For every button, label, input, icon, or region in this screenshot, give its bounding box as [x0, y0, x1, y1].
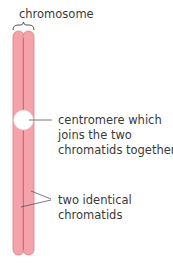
centromere-label-line1: centromere which	[58, 113, 162, 128]
chromosome-brace	[13, 22, 34, 30]
chromatids-label-line1: two identical	[58, 193, 132, 208]
left-chromatid	[13, 31, 24, 255]
chromatids-label-line2: chromatids	[58, 208, 122, 223]
chromosome-label: chromosome	[19, 7, 94, 22]
right-chromatid	[23, 31, 34, 255]
centromere-label-line3: chromatids together	[58, 143, 173, 158]
centromere-label-line2: joins the two	[58, 128, 132, 143]
